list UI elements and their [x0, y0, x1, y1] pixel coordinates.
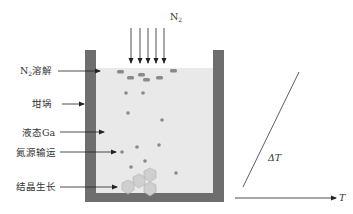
- svg-text:氮源输运: 氮源输运: [16, 147, 56, 158]
- svg-text:坩埚: 坩埚: [32, 98, 52, 109]
- n2-flow-arrows: [131, 28, 164, 63]
- temperature-gradient-line: [243, 72, 299, 187]
- growth-diagram: N2 N2溶解 坩埚 液态Ga: [0, 0, 353, 214]
- t-axis-label: T: [339, 192, 346, 203]
- svg-text:N2溶解: N2溶解: [20, 65, 52, 77]
- n2-gas-label: N2: [170, 11, 182, 23]
- svg-text:结晶生长: 结晶生长: [16, 181, 56, 192]
- delta-t-label: ΔT: [267, 152, 282, 163]
- svg-text:液态Ga: 液态Ga: [22, 127, 56, 138]
- label-crucible: 坩埚: [32, 98, 84, 109]
